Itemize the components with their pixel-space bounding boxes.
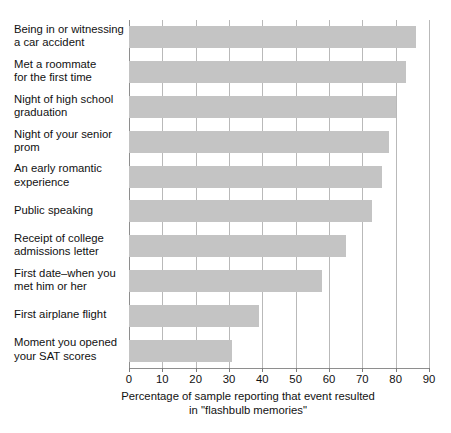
bar	[129, 235, 346, 257]
category-label: An early romantic experience	[14, 162, 126, 188]
bar	[129, 200, 372, 222]
x-tick-label-90: 90	[409, 373, 449, 386]
x-tick-10	[162, 368, 163, 372]
category-label: Moment you opened your SAT scores	[14, 336, 126, 362]
category-label: Met a roommate for the first time	[14, 58, 126, 84]
x-axis-title-line-2: in "flashbulb memories"	[78, 404, 418, 418]
bar	[129, 340, 232, 362]
bar	[129, 26, 416, 48]
x-tick-90	[429, 368, 430, 372]
x-tick-40	[262, 368, 263, 372]
x-axis-title-line-1: Percentage of sample reporting that even…	[121, 390, 375, 402]
bar	[129, 270, 322, 292]
x-tick-60	[329, 368, 330, 372]
category-label: Receipt of college admissions letter	[14, 232, 126, 258]
bar	[129, 305, 259, 327]
category-label: Night of high school graduation	[14, 93, 126, 119]
category-label-column: Being in or witnessing a car accidentMet…	[0, 20, 124, 368]
category-label: Public speaking	[14, 204, 126, 217]
category-label: First airplane flight	[14, 308, 126, 321]
x-tick-30	[229, 368, 230, 372]
x-tick-50	[296, 368, 297, 372]
x-axis-title: Percentage of sample reporting that even…	[78, 390, 418, 417]
x-axis-line	[129, 368, 430, 369]
bar	[129, 131, 389, 153]
x-tick-80	[396, 368, 397, 372]
flashbulb-memories-bar-chart: Being in or witnessing a car accidentMet…	[0, 0, 451, 433]
bar	[129, 61, 406, 83]
plot-area	[129, 20, 429, 368]
x-tick-20	[196, 368, 197, 372]
bar	[129, 96, 396, 118]
bar	[129, 166, 382, 188]
category-label: Being in or witnessing a car accident	[14, 23, 126, 49]
gridline-90	[429, 20, 430, 368]
x-tick-70	[362, 368, 363, 372]
category-label: First date–when you met him or her	[14, 267, 126, 293]
x-tick-0	[129, 368, 130, 372]
category-label: Night of your senior prom	[14, 128, 126, 154]
